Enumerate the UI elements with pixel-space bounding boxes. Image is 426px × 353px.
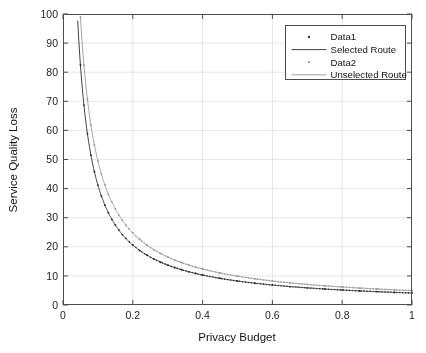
data-point bbox=[405, 292, 407, 294]
data-point bbox=[200, 268, 202, 270]
chart-legend[interactable]: Data1Selected RouteData2Unselected Route bbox=[286, 26, 407, 81]
x-axis-title: Privacy Budget bbox=[198, 331, 276, 343]
data-point bbox=[168, 265, 170, 267]
data-point bbox=[251, 282, 253, 284]
y-tick-label: 10 bbox=[46, 270, 58, 282]
data-point bbox=[372, 288, 374, 290]
data-point bbox=[188, 271, 190, 273]
data-point bbox=[174, 259, 176, 261]
data-point bbox=[179, 261, 181, 263]
data-point bbox=[203, 275, 205, 277]
data-point bbox=[274, 285, 276, 287]
data-point bbox=[384, 291, 386, 293]
data-point bbox=[357, 287, 359, 289]
data-point bbox=[114, 224, 116, 226]
data-point bbox=[360, 287, 362, 289]
data-point bbox=[165, 263, 167, 265]
data-point bbox=[355, 287, 357, 289]
data-point bbox=[325, 288, 327, 290]
y-tick-label: 40 bbox=[46, 182, 58, 194]
data-point bbox=[227, 279, 229, 281]
data-point bbox=[408, 292, 410, 294]
data-point bbox=[316, 288, 318, 290]
data-point bbox=[298, 286, 300, 288]
data-point bbox=[162, 254, 164, 256]
data-point bbox=[298, 283, 300, 285]
data-point bbox=[191, 265, 193, 267]
data-point bbox=[107, 212, 109, 214]
data-point bbox=[363, 290, 365, 292]
data-point bbox=[83, 64, 85, 66]
data-point bbox=[402, 292, 404, 294]
data-point bbox=[257, 283, 259, 285]
x-tick-label: 0.4 bbox=[195, 309, 210, 321]
data-point bbox=[375, 288, 377, 290]
y-tick-label: 80 bbox=[46, 66, 58, 78]
data-point bbox=[197, 273, 199, 275]
data-point bbox=[230, 279, 232, 281]
data-point bbox=[268, 280, 270, 282]
data-point bbox=[328, 285, 330, 287]
data-point bbox=[144, 243, 146, 245]
data-point bbox=[366, 290, 368, 292]
data-point bbox=[159, 261, 161, 263]
data-point bbox=[153, 249, 155, 251]
data-point bbox=[132, 244, 134, 246]
data-point bbox=[254, 282, 256, 284]
data-point bbox=[340, 286, 342, 288]
data-point bbox=[375, 291, 377, 293]
x-tick-label: 0.6 bbox=[265, 309, 280, 321]
data-point bbox=[286, 282, 288, 284]
data-point bbox=[343, 286, 345, 288]
data-point bbox=[254, 278, 256, 280]
data-point bbox=[352, 287, 354, 289]
data-point bbox=[360, 290, 362, 292]
data-point bbox=[310, 284, 312, 286]
data-point bbox=[307, 284, 309, 286]
data-point bbox=[206, 269, 208, 271]
data-point bbox=[337, 286, 339, 288]
chart-canvas: 00.20.40.60.81 0102030405060708090100 Pr… bbox=[0, 0, 426, 353]
x-tick-label: 0.2 bbox=[125, 309, 140, 321]
data-point bbox=[86, 98, 88, 100]
data-point bbox=[83, 104, 85, 106]
data-point bbox=[93, 144, 95, 146]
data-point bbox=[337, 289, 339, 291]
data-point bbox=[393, 289, 395, 291]
data-point bbox=[263, 283, 265, 285]
data-point bbox=[331, 289, 333, 291]
data-point bbox=[396, 292, 398, 294]
data-point bbox=[316, 284, 318, 286]
data-point bbox=[121, 219, 123, 221]
data-point bbox=[188, 264, 190, 266]
data-point bbox=[147, 255, 149, 257]
data-point bbox=[125, 224, 127, 226]
data-point bbox=[277, 285, 279, 287]
data-point bbox=[301, 287, 303, 289]
data-point bbox=[221, 278, 223, 280]
data-point bbox=[233, 280, 235, 282]
data-point bbox=[203, 269, 205, 271]
data-point bbox=[239, 276, 241, 278]
data-point bbox=[86, 133, 88, 135]
data-point bbox=[257, 278, 259, 280]
data-point bbox=[90, 124, 92, 126]
data-point bbox=[263, 279, 265, 281]
data-point bbox=[162, 262, 164, 264]
data-point bbox=[242, 276, 244, 278]
data-point bbox=[150, 247, 152, 249]
data-point bbox=[280, 281, 282, 283]
data-point bbox=[97, 184, 99, 186]
data-point bbox=[97, 160, 99, 162]
data-point bbox=[266, 279, 268, 281]
data-point bbox=[393, 292, 395, 294]
data-point bbox=[349, 290, 351, 292]
data-point bbox=[111, 219, 113, 221]
data-point bbox=[138, 249, 140, 251]
data-point bbox=[277, 281, 279, 283]
data-point bbox=[239, 281, 241, 283]
data-point bbox=[215, 277, 217, 279]
data-point bbox=[319, 285, 321, 287]
data-point bbox=[197, 267, 199, 269]
data-point bbox=[179, 269, 181, 271]
